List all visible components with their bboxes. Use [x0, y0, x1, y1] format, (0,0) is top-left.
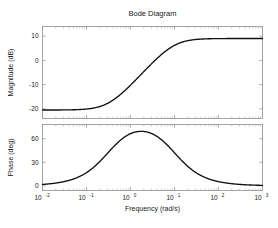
magnitude-ytick-label: 0	[35, 57, 39, 64]
xtick-exponent: -1	[90, 193, 95, 198]
phase-ytick-label: 0	[35, 182, 39, 189]
magnitude-curve	[43, 39, 263, 111]
xtick-exponent: 0	[134, 193, 137, 198]
magnitude-axis-label: Magnitude (dB)	[7, 49, 15, 97]
phase-curve	[43, 131, 263, 185]
xtick-label: 10	[34, 194, 42, 201]
xtick-exponent: -2	[46, 193, 51, 198]
xtick-label: 10	[122, 194, 130, 201]
bode-diagram-figure: Bode Diagram100-10-206030010-210-1100101…	[0, 0, 278, 228]
bode-plot-canvas: Bode Diagram100-10-206030010-210-1100101…	[0, 0, 278, 228]
xtick-label: 10	[166, 194, 174, 201]
xtick-exponent: 3	[266, 193, 269, 198]
phase-axis-label: Phase (deg)	[7, 138, 15, 176]
magnitude-axes-box	[43, 27, 263, 119]
xtick-label: 10	[210, 194, 218, 201]
magnitude-ytick-label: 10	[31, 32, 39, 39]
figure-title: Bode Diagram	[129, 9, 177, 18]
xtick-label: 10	[78, 194, 86, 201]
phase-ytick-label: 30	[31, 159, 39, 166]
magnitude-ytick-label: -20	[29, 105, 39, 112]
magnitude-ytick-label: -10	[29, 81, 39, 88]
phase-ytick-label: 60	[31, 135, 39, 142]
xtick-exponent: 1	[178, 193, 181, 198]
x-axis-label: Frequency (rad/s)	[125, 205, 180, 213]
xtick-exponent: 2	[222, 193, 225, 198]
xtick-label: 10	[254, 194, 262, 201]
